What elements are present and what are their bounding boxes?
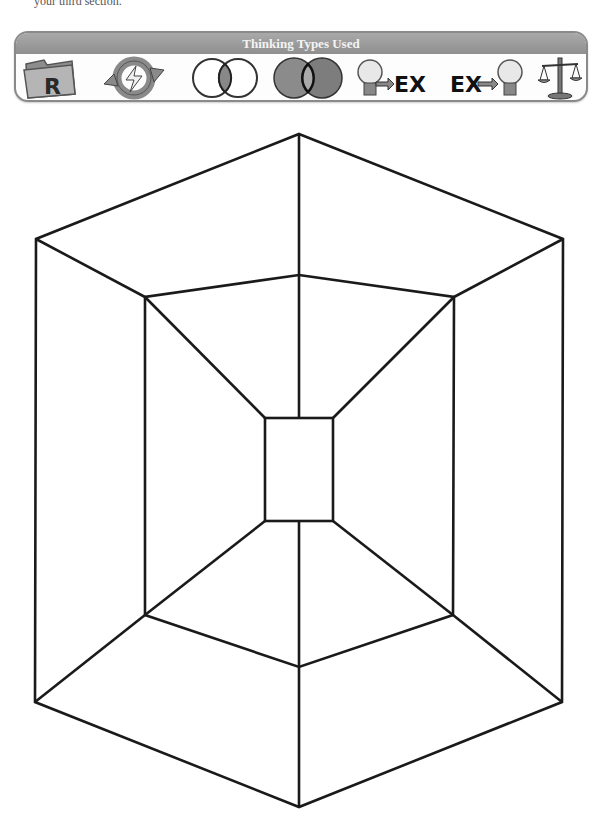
inner-connector-lower-right (333, 521, 453, 615)
hexagon-frame-diagram (0, 0, 600, 821)
connector-upper-right (454, 239, 563, 297)
inner-connector-lower-left (145, 521, 265, 615)
connector-lower-right (453, 615, 562, 702)
connector-lower-left (35, 615, 145, 702)
inner-connector-upper-right (333, 297, 454, 418)
inner-rectangle (265, 418, 333, 521)
inner-connector-upper-left (145, 297, 265, 418)
connector-upper-left (36, 239, 145, 297)
